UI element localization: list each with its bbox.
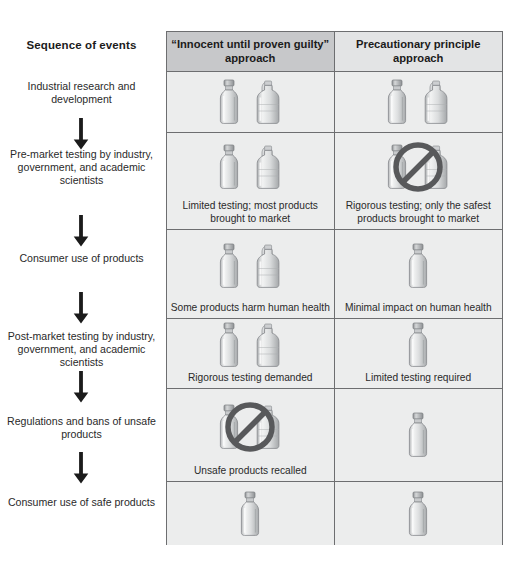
table-header-row: “Innocent until proven guilty” approach …	[167, 32, 502, 72]
sequence-of-events-column: Sequence of events Industrial research a…	[0, 0, 163, 561]
cell-artwork	[335, 389, 503, 481]
jug-icon	[252, 243, 284, 289]
cell-innocent-row-2: Limited testing; most products brought t…	[167, 133, 335, 229]
sequence-step-6: Consumer use of safe products	[4, 496, 159, 509]
table-row	[167, 482, 502, 545]
cell-innocent-row-6	[167, 482, 335, 545]
cell-artwork	[167, 482, 334, 545]
bottle-icon	[405, 491, 431, 537]
cell-precautionary-row-2: Rigorous testing; only the safest produc…	[335, 133, 503, 229]
cell-caption: Unsafe products recalled	[170, 465, 330, 481]
cell-artwork	[167, 230, 334, 302]
cell-caption: Limited testing; most products brought t…	[170, 200, 330, 229]
product-group	[211, 144, 289, 190]
bottle-icon	[237, 491, 263, 537]
sequence-step-1: Industrial research and development	[4, 80, 159, 106]
cell-caption: Rigorous testing demanded	[170, 372, 330, 388]
jug-icon	[252, 79, 284, 125]
cell-precautionary-row-1	[335, 72, 503, 132]
cell-caption: Minimal impact on human health	[338, 302, 499, 318]
table-row: Limited testing; most products brought t…	[167, 133, 502, 230]
cell-caption: Some products harm human health	[170, 302, 330, 318]
bottle-icon	[216, 322, 242, 368]
jug-icon	[252, 322, 284, 368]
jug-icon	[420, 144, 452, 190]
sequence-step-4: Post-market testing by industry, governm…	[4, 330, 159, 370]
product-group	[232, 491, 268, 537]
cell-artwork	[335, 230, 503, 302]
sequence-step-2: Pre-market testing by industry, governme…	[4, 148, 159, 188]
jug-icon	[420, 79, 452, 125]
table-row	[167, 72, 502, 133]
product-group	[400, 491, 436, 537]
sequence-of-events-title: Sequence of events	[0, 39, 163, 51]
product-group	[400, 322, 436, 368]
product-group	[211, 404, 289, 450]
bottle-icon	[384, 144, 410, 190]
down-arrow-icon-1	[66, 118, 96, 150]
cell-artwork	[335, 319, 503, 372]
precautionary-principle-figure: Sequence of events Industrial research a…	[0, 0, 506, 561]
product-group	[379, 144, 457, 190]
cell-precautionary-row-5	[335, 389, 503, 481]
cell-innocent-row-1	[167, 72, 335, 132]
table-row: Some products harm human health Minimal …	[167, 230, 502, 319]
bottle-icon	[405, 322, 431, 368]
cell-innocent-row-5: Unsafe products recalled	[167, 389, 335, 481]
down-arrow-icon-2	[66, 215, 96, 247]
cell-artwork	[335, 133, 503, 200]
bottle-icon	[216, 243, 242, 289]
table-row: Rigorous testing demanded Limited testin…	[167, 319, 502, 389]
down-arrow-icon-5	[66, 452, 96, 484]
product-group	[400, 243, 436, 289]
cell-artwork	[335, 482, 503, 545]
bottle-icon	[384, 79, 410, 125]
cell-artwork	[167, 72, 334, 132]
cell-artwork	[335, 72, 503, 132]
cell-artwork	[167, 133, 334, 200]
jug-icon	[252, 404, 284, 450]
product-group	[211, 79, 289, 125]
bottle-icon	[216, 144, 242, 190]
bottle-icon	[216, 404, 242, 450]
cell-caption: Rigorous testing; only the safest produc…	[338, 200, 499, 229]
bottle-icon	[405, 243, 431, 289]
approach-comparison-table: “Innocent until proven guilty” approach …	[166, 31, 503, 545]
table-row: Unsafe products recalled	[167, 389, 502, 482]
cell-caption: Limited testing required	[338, 372, 499, 388]
product-group	[211, 322, 289, 368]
column-header-precautionary-principle: Precautionary principle approach	[335, 32, 503, 72]
product-group	[211, 243, 289, 289]
cell-precautionary-row-4: Limited testing required	[335, 319, 503, 388]
cell-innocent-row-4: Rigorous testing demanded	[167, 319, 335, 388]
cell-artwork	[167, 319, 334, 372]
cell-precautionary-row-3: Minimal impact on human health	[335, 230, 503, 318]
cell-precautionary-row-6	[335, 482, 503, 545]
down-arrow-icon-4	[66, 371, 96, 403]
bottle-icon	[405, 412, 431, 458]
column-header-innocent-until-proven-guilty: “Innocent until proven guilty” approach	[167, 32, 335, 72]
sequence-step-3: Consumer use of products	[4, 252, 159, 265]
table-body: Limited testing; most products brought t…	[167, 72, 502, 545]
bottle-icon	[216, 79, 242, 125]
sequence-step-5: Regulations and bans of unsafe products	[4, 415, 159, 441]
product-group	[400, 412, 436, 458]
down-arrow-icon-3	[66, 292, 96, 324]
cell-artwork	[167, 389, 334, 465]
product-group	[379, 79, 457, 125]
jug-icon	[252, 144, 284, 190]
cell-innocent-row-3: Some products harm human health	[167, 230, 335, 318]
